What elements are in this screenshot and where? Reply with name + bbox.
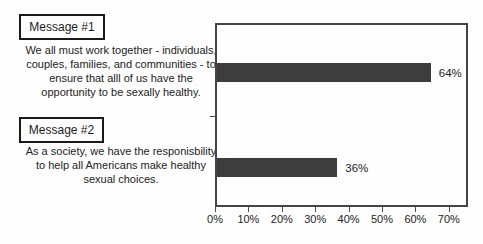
x-axis-tick-label: 70% [432,213,466,225]
message-2-text: As a society, we have the responisbility… [4,144,238,186]
figure: Message #1 We all must work together - i… [0,0,483,244]
bar-message-1 [217,63,431,82]
bar-message-2 [217,158,337,177]
x-axis-tick [215,207,216,212]
category-divider-tick [210,116,215,117]
x-axis-tick [315,207,316,212]
message-1-box: Message #1 [19,14,105,40]
message-1-line-3: ensure that alll of us have the [4,71,238,85]
x-axis-tick-label: 40% [332,213,366,225]
message-2-line-1: As a society, we have the responisbility [4,144,238,158]
x-axis-tick-label: 50% [365,213,399,225]
x-axis-tick-label: 60% [398,213,432,225]
message-2-line-3: sexual choices. [4,172,238,186]
plot-area [215,23,468,207]
message-1-text: We all must work together - individuals,… [4,43,238,99]
message-1-line-4: opportunity to be sexally healthy. [4,85,238,99]
x-axis-tick-label: 20% [265,213,299,225]
message-2-box: Message #2 [19,117,104,143]
x-axis-tick-label: 0% [198,213,232,225]
message-1-label: Message #1 [29,20,94,34]
x-axis-tick [415,207,416,212]
message-1-line-2: couples, families, and communities - to [4,57,238,71]
x-axis-tick [248,207,249,212]
message-2-line-2: to help all Americans make healthy [4,158,238,172]
x-axis-tick [449,207,450,212]
x-axis-tick [282,207,283,212]
bar-value-label: 64% [439,67,462,79]
bar-value-label: 36% [345,162,368,174]
message-2-label: Message #2 [29,123,94,137]
message-1-line-1: We all must work together - individuals, [4,43,238,57]
x-axis-tick [349,207,350,212]
x-axis-tick-label: 30% [298,213,332,225]
x-axis-tick-label: 10% [231,213,265,225]
x-axis-tick [382,207,383,212]
